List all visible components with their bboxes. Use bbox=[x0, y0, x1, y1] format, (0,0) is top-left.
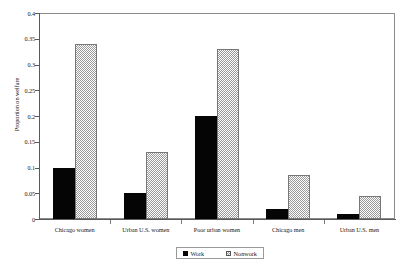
y-axis-tick-label: 0.15 bbox=[7, 138, 35, 145]
y-axis-tick-label: 0.3 bbox=[7, 61, 35, 68]
bar-nonwork bbox=[146, 152, 168, 219]
bar-work bbox=[195, 116, 217, 219]
bars-layer bbox=[39, 13, 395, 219]
legend-item-work: Work bbox=[183, 250, 204, 257]
x-axis-category-label: Urban U.S. men bbox=[299, 226, 411, 233]
legend-label-nonwork: Nonwork bbox=[234, 250, 257, 257]
legend-swatch-work-icon bbox=[183, 251, 188, 256]
y-axis-tick-label: 0 bbox=[7, 216, 35, 223]
x-axis-separator-tick bbox=[181, 220, 182, 224]
y-axis-tick-label: 0.1 bbox=[7, 164, 35, 171]
bar-nonwork bbox=[359, 196, 381, 219]
y-axis-tick-label: 0.25 bbox=[7, 87, 35, 94]
x-axis-separator-tick bbox=[324, 220, 325, 224]
legend: Work Nonwork bbox=[176, 247, 264, 259]
bar-work bbox=[124, 193, 146, 219]
bar-nonwork bbox=[75, 44, 97, 219]
bar-work bbox=[266, 209, 288, 219]
legend-item-nonwork: Nonwork bbox=[226, 250, 257, 257]
bar-work bbox=[53, 168, 75, 220]
legend-label-work: Work bbox=[191, 250, 205, 257]
bar-chart: 00.050.10.150.20.250.30.350.4 Proportion… bbox=[0, 0, 411, 271]
x-axis-separator-tick bbox=[253, 220, 254, 224]
x-axis-separator-tick bbox=[110, 220, 111, 224]
x-axis-line bbox=[39, 219, 396, 220]
bar-nonwork bbox=[217, 49, 239, 219]
y-axis-tick-label: 0.05 bbox=[7, 190, 35, 197]
bar-nonwork bbox=[288, 175, 310, 219]
legend-swatch-nonwork-icon bbox=[226, 251, 231, 256]
y-axis-tick-label: 0.2 bbox=[7, 113, 35, 120]
y-axis-title: Proportion on welfare bbox=[13, 45, 20, 165]
y-axis-tick-label: 0.35 bbox=[7, 35, 35, 42]
y-axis-tick-label: 0.4 bbox=[7, 10, 35, 17]
